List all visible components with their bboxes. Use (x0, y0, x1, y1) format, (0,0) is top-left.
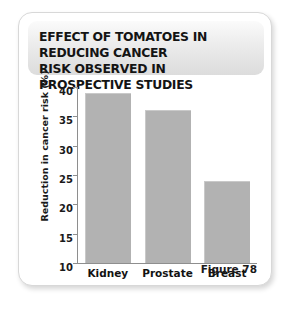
bar (145, 110, 191, 263)
y-axis-tick-mark (73, 116, 77, 117)
y-axis-tick-mark (73, 263, 77, 264)
y-axis-tick-mark (73, 146, 77, 147)
figure-root: EFFECT OF TOMATOES IN REDUCING CANCER RI… (0, 0, 296, 312)
y-axis-tick-mark (73, 175, 77, 176)
bar (85, 93, 131, 263)
chart-title-plate: EFFECT OF TOMATOES IN REDUCING CANCER RI… (28, 21, 264, 75)
x-axis-tick-label: Prostate (138, 267, 198, 279)
y-axis-tick-label: 15 (47, 232, 73, 243)
y-axis-tick-mark (73, 204, 77, 205)
chart-title-line-1: EFFECT OF TOMATOES IN REDUCING CANCER (39, 29, 207, 60)
y-axis-tick-labels: 10152025303540 (47, 89, 73, 261)
bar-series (78, 87, 257, 263)
figure-caption: Figure 78 (201, 263, 257, 275)
y-axis-tick-mark (73, 234, 77, 235)
plot-area: Reduction in cancer risk (%) 10152025303… (19, 79, 273, 285)
y-axis-tick-label: 40 (47, 86, 73, 97)
y-axis-tick-label: 35 (47, 115, 73, 126)
figure-card: EFFECT OF TOMATOES IN REDUCING CANCER RI… (18, 12, 272, 286)
y-axis-tick-label: 25 (47, 174, 73, 185)
y-axis-tick-label: 20 (47, 203, 73, 214)
y-axis-tick-label: 30 (47, 144, 73, 155)
bar (204, 181, 250, 263)
y-axis-tick-mark (73, 87, 77, 88)
x-axis-tick-label: Kidney (78, 267, 138, 279)
y-axis-tick-label: 10 (47, 262, 73, 273)
